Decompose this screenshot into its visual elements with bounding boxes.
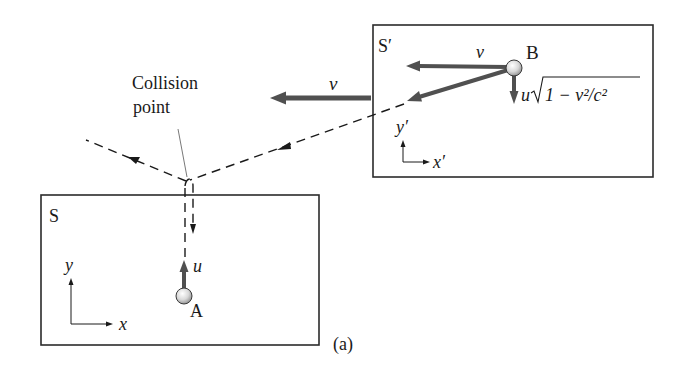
frame-s-y-axis-label: y — [63, 255, 73, 275]
vertical-velocity-prefix: u — [521, 85, 530, 105]
incoming-path-arrowhead-icon — [277, 142, 291, 150]
y-axis-arrowhead-icon — [69, 278, 74, 285]
trajectories — [86, 104, 404, 257]
frame-s-prime-axes: y′ x′ — [394, 117, 446, 172]
collision-point-annotation: Collision point — [132, 73, 198, 177]
ball-b-sphere — [506, 60, 522, 76]
collision-label-line2: point — [133, 97, 170, 117]
vertical-velocity-radicand: 1 − v²/c² — [545, 85, 608, 105]
vertical-velocity-expression: u 1 − v²/c² — [521, 77, 640, 105]
ball-a-velocity-label: u — [193, 256, 202, 276]
figure-label: (a) — [333, 334, 353, 355]
collision-label-line1: Collision — [132, 73, 198, 93]
frame-s-label: S — [49, 206, 59, 226]
frame-s-prime: S′ y′ x′ v B u — [373, 25, 653, 177]
resultant-velocity-arrowhead-icon — [407, 91, 422, 102]
frame-s-x-axis-label: x — [118, 314, 127, 334]
ball-a: u A — [176, 256, 203, 321]
frame-velocity-label: v — [329, 73, 338, 94]
collision-leader-line — [178, 129, 187, 177]
vertical-velocity-arrowhead-icon — [510, 91, 519, 104]
relativistic-collision-diagram: S y x u A S′ y′ x′ — [0, 0, 686, 373]
frame-s-prime-label: S′ — [378, 36, 392, 56]
frame-s-box — [41, 195, 319, 345]
velocity-u-arrowhead-icon — [180, 260, 189, 272]
frame-velocity-arrow: v — [270, 73, 371, 105]
ball-b-label: B — [526, 42, 539, 63]
velocity-v-arrowhead-icon — [406, 61, 420, 72]
return-path-arrowhead-icon — [190, 224, 196, 234]
ball-b-incoming-path — [190, 104, 404, 180]
x-prime-axis-arrowhead-icon — [423, 160, 430, 165]
outgoing-path-arrowhead-icon — [128, 157, 140, 164]
y-prime-axis-arrowhead-icon — [401, 140, 406, 147]
ball-b-velocity-label: v — [476, 42, 484, 62]
frame-velocity-arrowhead-icon — [270, 92, 286, 105]
ball-a-return-path — [185, 179, 193, 226]
frame-s-prime-y-axis-label: y′ — [394, 117, 409, 137]
frame-s-axes: y x — [63, 255, 127, 334]
frame-s-prime-x-axis-label: x′ — [432, 152, 446, 172]
ball-b: v B u 1 − v²/c² — [406, 42, 640, 105]
ball-a-label: A — [190, 301, 203, 321]
x-axis-arrowhead-icon — [106, 322, 113, 327]
frame-s: S y x u A — [41, 195, 319, 345]
